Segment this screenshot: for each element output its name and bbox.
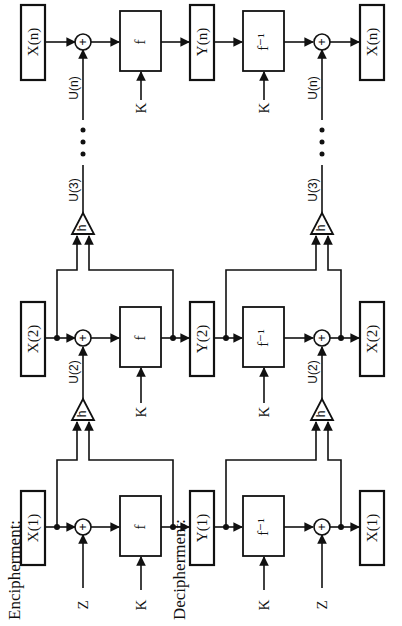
svg-text:U(3): U(3): [67, 178, 81, 201]
svg-text:U(n): U(n): [67, 76, 81, 99]
svg-text:Decipherment:: Decipherment:: [170, 519, 189, 620]
svg-text:Z: Z: [75, 600, 91, 609]
svg-text:f⁻¹: f⁻¹: [255, 33, 271, 51]
svg-text:X(n): X(n): [364, 28, 381, 56]
svg-text:+: +: [315, 334, 329, 341]
dec-block-n: Y(n) f⁻¹ K + U(n) X(n): [190, 5, 384, 120]
svg-text:f: f: [132, 525, 148, 530]
svg-text:+: +: [76, 523, 90, 530]
block-chaining-diagram: Encipherment: Decipherment: X(1) + Z f K…: [0, 0, 402, 626]
svg-text:f: f: [132, 336, 148, 341]
svg-text:K: K: [256, 599, 272, 610]
svg-text:+: +: [76, 334, 90, 341]
svg-text:U(2): U(2): [306, 360, 320, 383]
enc-block-n: X(n) + U(n) f K: [21, 5, 189, 120]
svg-text:X(2): X(2): [364, 325, 381, 353]
svg-text:U(2): U(2): [67, 360, 81, 383]
svg-text:f⁻¹: f⁻¹: [255, 518, 271, 536]
svg-text:K: K: [256, 102, 272, 113]
dec-block-2: Y(2) f⁻¹ K + U(2) X(2) h U(3): [190, 165, 384, 417]
svg-text:Y(2): Y(2): [194, 325, 211, 353]
svg-text:K: K: [133, 406, 149, 417]
svg-text:K: K: [133, 102, 149, 113]
svg-text:h: h: [75, 225, 89, 232]
svg-text:K: K: [133, 599, 149, 610]
svg-text:U(n): U(n): [306, 76, 320, 99]
svg-text:h: h: [75, 411, 89, 418]
svg-text:X(n): X(n): [25, 28, 42, 56]
svg-text:K: K: [256, 406, 272, 417]
svg-text:f⁻¹: f⁻¹: [255, 329, 271, 347]
svg-text:X(1): X(1): [25, 514, 42, 542]
decipherment-header: Decipherment:: [170, 519, 189, 620]
svg-text:h: h: [314, 411, 328, 418]
svg-text:Y(1): Y(1): [194, 514, 211, 542]
svg-text:Z: Z: [314, 600, 330, 609]
svg-text:X(2): X(2): [25, 325, 42, 353]
svg-text:X(1): X(1): [364, 514, 381, 542]
svg-text:f: f: [132, 40, 148, 45]
svg-text:U(3): U(3): [306, 178, 320, 201]
svg-text:Y(n): Y(n): [194, 28, 211, 56]
svg-text:+: +: [315, 523, 329, 530]
svg-text:+: +: [315, 38, 329, 45]
svg-text:h: h: [314, 225, 328, 232]
enc-block-1: X(1) + Z f K h: [21, 347, 189, 610]
dec-block-1: Y(1) f⁻¹ K + Z X(1) h: [190, 347, 384, 610]
svg-text:+: +: [76, 38, 90, 45]
enc-block-2: X(2) + U(2) f K h U(3): [21, 165, 189, 417]
